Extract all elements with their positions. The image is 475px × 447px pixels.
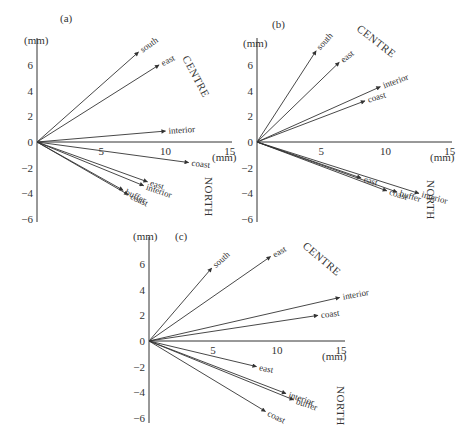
y-tick-label: 4 [28,85,34,97]
vector-centre-interior [257,87,380,142]
vector-north-interior [37,142,144,186]
vector-label: coast [266,408,287,425]
vector-north-interior [257,142,419,193]
y-tick-label: −2 [241,162,253,174]
vector-figure: (a) (mm) (mm) CENTRE NORTH 510156420−2−4… [0,0,475,447]
vector-north-coast [37,142,128,195]
vector-label: east [258,362,274,375]
vector-label: interior [342,287,370,302]
y-tick-label: −4 [241,187,253,199]
y-tick-label: 2 [140,309,146,321]
vector-centre-east [257,62,339,142]
x-tick-label: 5 [210,344,216,356]
vector-label: coast [320,308,340,320]
panel-label: (c) [175,230,188,243]
y-tick-label: 4 [248,85,254,97]
y-tick-label: 6 [140,258,146,270]
vector-centre-interior [149,297,340,341]
x-tick-label: 15 [224,145,236,157]
vector-label: east [159,52,176,68]
vector-centre-coast [149,315,318,341]
panel-a: (a) (mm) (mm) CENTRE NORTH 510156420−2−4… [21,12,236,225]
group-label-centre: CENTRE [355,22,398,60]
panel-b: (b) (mm) (mm) CENTRE NORTH 510156420−2−4… [241,18,455,225]
group-label-centre: CENTRE [180,53,212,99]
vector-centre-south [149,268,212,341]
y-tick-label: −2 [133,361,145,373]
panel-label: (a) [60,12,73,25]
x-tick-label: 10 [160,145,172,157]
vector-label: south [138,35,160,55]
group-label-north: NORTH [335,386,347,426]
vector-label: buffer [399,188,423,204]
y-tick-label: 0 [28,136,34,148]
y-tick-label: −2 [21,162,33,174]
y-tick-label: −6 [133,412,145,424]
group-label-north: NORTH [203,177,215,217]
vector-label: south [314,30,335,52]
y-tick-label: −6 [241,213,253,225]
vector-centre-coast [257,101,365,142]
panel-label: (b) [272,18,285,31]
panel-c: (c) (mm) (mm) CENTRE NORTH 510156420−2−4… [133,230,370,426]
group-label-centre: CENTRE [301,239,344,278]
y-tick-label: 6 [28,59,34,71]
y-tick-label: −4 [21,187,33,199]
y-tick-label: 0 [248,136,254,148]
x-tick-label: 15 [444,145,456,157]
vector-label: interior [381,72,409,91]
vector-centre-east [149,257,271,341]
vector-north-coast [149,341,265,411]
vector-label: coast [191,158,211,170]
y-unit-label: (mm) [24,34,49,47]
vector-north-east [37,142,148,182]
vector-label: coast [129,191,150,208]
y-tick-label: −6 [21,213,33,225]
x-tick-label: 15 [336,344,348,356]
y-tick-label: 2 [28,110,34,122]
vector-centre-south [37,52,139,142]
vector-label: interior [168,124,195,136]
y-unit-label: (mm) [243,37,268,50]
x-tick-label: 10 [272,344,284,356]
vector-label: east [271,244,289,260]
y-tick-label: 4 [140,284,146,296]
vector-label: south [211,249,233,270]
vector-north-buffer [257,142,397,192]
y-tick-label: −4 [133,386,145,398]
vector-label: interior [145,182,173,200]
vector-centre-interior [37,131,166,142]
y-tick-label: 0 [140,335,146,347]
y-tick-label: 2 [248,110,254,122]
vector-label: east [339,48,357,65]
x-tick-label: 10 [380,145,392,157]
y-tick-label: 6 [248,59,254,71]
vector-centre-east [37,65,159,142]
x-tick-label: 5 [319,145,325,157]
y-unit-label: (mm) [133,230,158,243]
